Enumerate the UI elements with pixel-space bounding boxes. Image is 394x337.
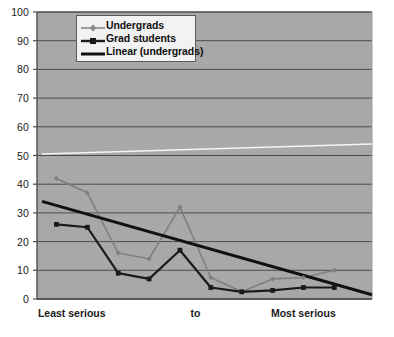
y-axis-tick-label: 60 xyxy=(3,122,29,132)
x-axis-tick-label: to xyxy=(190,308,200,319)
legend-label-grad-students: Grad students xyxy=(106,33,176,44)
line-diamond-marker-icon xyxy=(80,20,106,32)
chart-container: 0102030405060708090100 Least serioustoMo… xyxy=(0,0,394,337)
solid-line-icon xyxy=(80,46,106,58)
x-axis-tick-label: Least serious xyxy=(38,308,106,319)
legend-item-linear-undergrads: Linear (undergrads) xyxy=(80,45,191,58)
legend-label-undergrads: Undergrads xyxy=(106,20,164,31)
x-axis-tick-label: Most serious xyxy=(271,308,336,319)
legend-item-grad-students: Grad students xyxy=(80,32,191,45)
y-axis-tick-label: 20 xyxy=(3,237,29,247)
chart-legend: Undergrads Grad students Linear (undergr… xyxy=(76,15,196,62)
y-axis-tick-label: 30 xyxy=(3,208,29,218)
line-square-marker-icon xyxy=(80,33,106,45)
y-axis-tick-label: 90 xyxy=(3,36,29,46)
y-axis-tick-label: 100 xyxy=(3,7,29,17)
y-axis-tick-label: 50 xyxy=(3,151,29,161)
y-axis-tick-label: 40 xyxy=(3,179,29,189)
legend-item-undergrads: Undergrads xyxy=(80,19,191,32)
y-axis-tick-label: 80 xyxy=(3,64,29,74)
y-axis-tick-label: 0 xyxy=(3,294,29,304)
y-axis-tick-label: 70 xyxy=(3,93,29,103)
y-axis-tick-label: 10 xyxy=(3,265,29,275)
legend-label-linear-undergrads: Linear (undergrads) xyxy=(106,46,203,57)
